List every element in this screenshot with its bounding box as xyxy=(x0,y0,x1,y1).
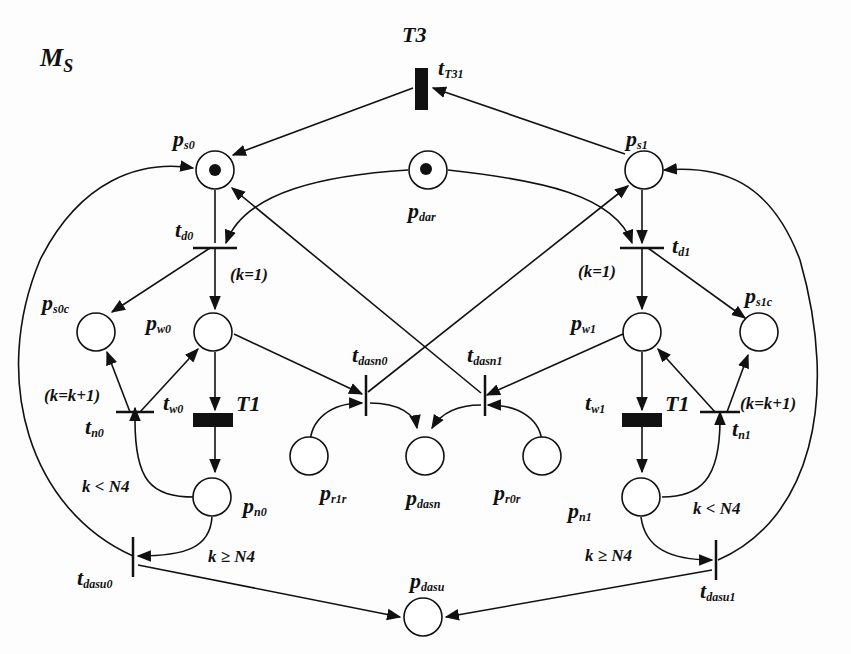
place-pn0 xyxy=(193,478,231,516)
place-ps1c xyxy=(740,313,778,351)
timing-label-t3: T3 xyxy=(402,22,426,47)
label-pdasn: pdasn xyxy=(404,485,441,511)
timing-label-t1-right: T1 xyxy=(665,391,689,416)
label-td1: td1 xyxy=(672,233,690,259)
label-pr1r: pr1r xyxy=(318,480,347,506)
model-title: MS xyxy=(39,43,73,76)
annotation-k-init-left: (k=1) xyxy=(230,265,268,284)
place-pdasn xyxy=(406,437,444,475)
label-td0: td0 xyxy=(175,217,193,243)
token-ps0 xyxy=(209,164,221,176)
place-labels: ps0 pdar ps1 ps0c pw0 pw1 ps1c pr1r pdas… xyxy=(40,126,773,594)
annotation-k-lt-left: k < N4 xyxy=(82,477,129,496)
diagram-canvas: MS T3 xyxy=(0,0,851,654)
label-tn1: tn1 xyxy=(732,416,751,442)
label-tdasu1: tdasu1 xyxy=(700,578,735,604)
label-ps0c: ps0c xyxy=(40,290,70,316)
label-pn0: pn0 xyxy=(241,493,267,519)
timing-label-t1-left: T1 xyxy=(236,391,260,416)
place-pn1 xyxy=(622,478,660,516)
label-tdasu0: tdasu0 xyxy=(77,565,112,591)
label-pw1: pw1 xyxy=(569,310,596,336)
label-tdasn0: tdasn0 xyxy=(352,342,387,368)
place-pdasu xyxy=(404,598,442,636)
label-pn1: pn1 xyxy=(566,498,592,524)
label-tn0: tn0 xyxy=(85,414,104,440)
place-ps1 xyxy=(625,151,663,189)
transition-tw0 xyxy=(193,413,233,427)
annotation-k-init-right: (k=1) xyxy=(578,262,616,281)
transition-tT31 xyxy=(415,68,428,110)
annotation-k-ge-left: k ≥ N4 xyxy=(208,547,255,566)
label-ps1: ps1 xyxy=(624,126,648,152)
annotation-k-lt-right: k < N4 xyxy=(693,499,740,518)
place-pw1 xyxy=(623,313,661,351)
label-pdar: pdar xyxy=(406,198,436,224)
petri-net-diagram: MS T3 xyxy=(0,0,851,654)
annotation-k-inc-left: (k=k+1) xyxy=(44,386,100,405)
label-tw1: tw1 xyxy=(585,390,605,416)
label-ps0: ps0 xyxy=(171,126,195,152)
annotation-k-ge-right: k ≥ N4 xyxy=(585,546,632,565)
label-tw0: tw0 xyxy=(163,390,183,416)
label-ps1c: ps1c xyxy=(743,283,773,309)
place-pw0 xyxy=(194,313,232,351)
place-pr0r xyxy=(523,437,561,475)
label-tdasn1: tdasn1 xyxy=(467,342,502,368)
place-ps0c xyxy=(77,313,115,351)
label-pdasu: pdasu xyxy=(408,568,445,594)
label-pw0: pw0 xyxy=(144,310,171,336)
transition-tw1 xyxy=(622,413,662,427)
annotation-k-inc-right: (k=k+1) xyxy=(740,394,796,413)
place-pr1r xyxy=(290,437,328,475)
token-pdar xyxy=(420,163,432,175)
label-tT31: tT31 xyxy=(438,55,463,81)
label-pr0r: pr0r xyxy=(492,480,521,506)
